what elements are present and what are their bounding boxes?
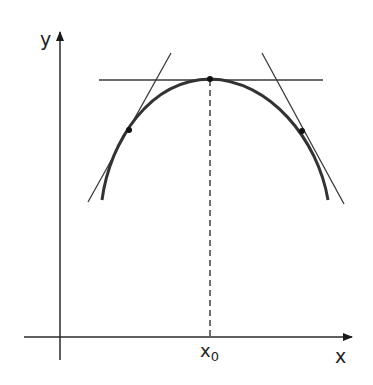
x0-label: x0 — [200, 340, 219, 364]
y-axis-label: y — [40, 28, 51, 50]
concave-curve — [102, 79, 328, 200]
right-tangent-point — [299, 128, 305, 134]
vertex-point — [207, 76, 213, 82]
left-tangent-point — [126, 127, 132, 133]
x0-label-base: x — [200, 340, 211, 361]
tangent-diagram: y x x0 — [0, 0, 373, 385]
x-axis-label: x — [335, 345, 346, 367]
x0-label-subscript: 0 — [211, 349, 219, 364]
